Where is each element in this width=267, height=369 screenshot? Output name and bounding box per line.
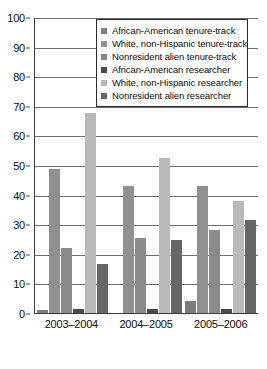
bar [233,201,244,313]
x-axis-tick-label: 2004–2005 [109,318,184,330]
chart-legend: African-American tenure-trackWhite, non-… [96,19,248,107]
bar [159,158,170,313]
bar [73,309,84,313]
bar [147,309,158,313]
legend-swatch-icon [101,28,107,34]
bar [85,113,96,313]
y-axis-tick-mark [26,106,30,107]
legend-item: Nonresident alien researcher [101,89,242,102]
y-axis-tick-mark [26,254,30,255]
y-axis-tick-label: 20 [13,249,25,260]
legend-swatch-icon [101,54,107,60]
legend-swatch-icon [101,67,107,73]
y-axis-tick-label: 90 [13,42,25,53]
legend-swatch-icon [101,80,107,86]
y-axis-tick-label: 30 [13,220,25,231]
y-axis-tick-label: 50 [13,161,25,172]
y-axis-tick-mark [26,18,30,19]
bar-chart: 1009080706050403020100 African-American … [0,0,267,369]
y-axis-tick-label: 60 [13,131,25,142]
bar [49,169,60,313]
y-axis: 1009080706050403020100 [0,18,30,314]
bar [221,309,232,313]
x-axis: 2003–20042004–20052005–2006 [34,318,258,330]
legend-label: African-American researcher [112,65,230,75]
y-axis-tick-label: 80 [13,72,25,83]
legend-label: White, non-Hispanic researcher [112,78,242,88]
legend-swatch-icon [101,93,107,99]
y-axis-tick-label: 70 [13,101,25,112]
y-axis-tick-mark [26,77,30,78]
y-axis-tick-label: 10 [13,279,25,290]
bar [209,230,220,313]
legend-item: White, non-Hispanic researcher [101,76,242,89]
y-axis-tick-mark [26,136,30,137]
bar [61,248,72,313]
bar [171,240,182,313]
y-axis-tick-label: 100 [7,13,25,24]
bar [245,220,256,313]
legend-swatch-icon [101,41,107,47]
legend-item: African-American researcher [101,63,242,76]
bar [197,186,208,313]
legend-label: White, non-Hispanic tenure-track [112,39,247,49]
legend-item: Nonresident alien tenure-track [101,50,242,63]
bar [37,310,48,313]
legend-item: African-American tenure-track [101,24,242,37]
bar [97,264,108,313]
bar [135,238,146,313]
bar [123,186,134,313]
y-axis-tick-label: 40 [13,190,25,201]
y-axis-tick-mark [26,166,30,167]
legend-label: Nonresident alien tenure-track [112,52,236,62]
bar [185,301,196,313]
legend-label: Nonresident alien researcher [112,91,231,101]
x-axis-tick-label: 2003–2004 [34,318,109,330]
y-axis-tick-mark [26,47,30,48]
x-axis-tick-label: 2005–2006 [183,318,258,330]
y-axis-tick-mark [26,195,30,196]
y-axis-tick-label: 0 [19,309,25,320]
y-axis-tick-mark [26,225,30,226]
legend-label: African-American tenure-track [112,26,235,36]
y-axis-tick-mark [26,284,30,285]
legend-item: White, non-Hispanic tenure-track [101,37,242,50]
y-axis-tick-mark [26,314,30,315]
